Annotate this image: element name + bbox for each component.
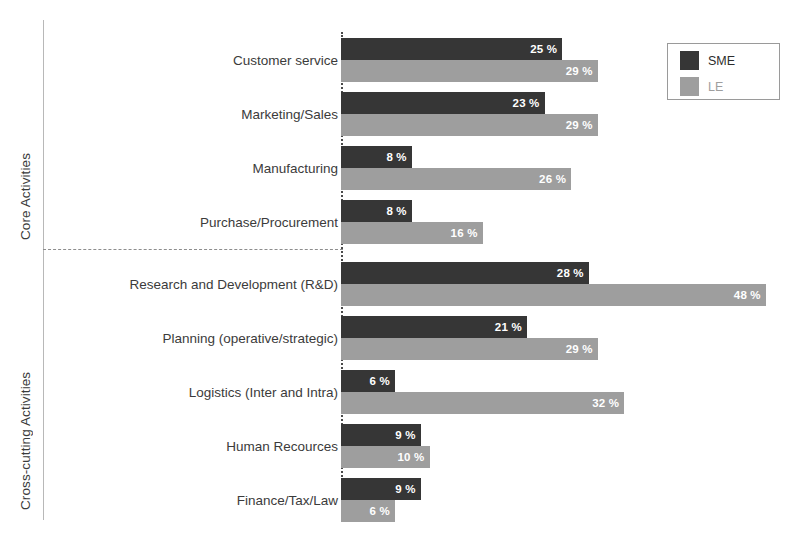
bar-le: 48 % [341,284,766,306]
bar-value-label: 32 % [592,397,619,409]
bar-le: 29 % [341,60,598,82]
category-label: Customer service [233,54,338,68]
bar-value-label: 9 % [395,483,415,495]
bar-pair: 21 %29 % [341,316,598,360]
bar-pair: 28 %48 % [341,262,766,306]
legend-item-le: LE [680,77,779,96]
bar-le: 26 % [341,168,571,190]
group-axis-line [43,20,44,520]
bar-value-label: 26 % [539,173,566,185]
bar-value-label: 48 % [734,289,761,301]
bar-le: 6 % [341,500,395,522]
bar-value-label: 29 % [566,65,593,77]
bar-sme: 6 % [341,370,395,392]
bar-sme: 8 % [341,200,412,222]
bar-pair: 23 %29 % [341,92,598,136]
legend-label-le: LE [708,80,723,94]
legend-swatch-sme-icon [680,51,699,70]
category-label: Research and Development (R&D) [129,278,338,292]
bar-sme: 9 % [341,478,421,500]
bar-le: 10 % [341,446,430,468]
bar-sme: 23 % [341,92,545,114]
legend-swatch-le-icon [680,77,699,96]
bar-value-label: 6 % [370,505,390,517]
chart-legend: SME LE [667,43,780,100]
category-label: Human Recources [226,440,338,454]
bar-value-label: 23 % [513,97,540,109]
bar-value-label: 29 % [566,119,593,131]
bar-pair: 9 %10 % [341,424,430,468]
group-label-core-activities: Core Activities [18,60,33,240]
group-label-cross-cutting-activities: Cross-cutting Activities [18,280,33,510]
category-label: Manufacturing [252,162,338,176]
category-label: Purchase/Procurement [200,216,338,230]
bar-le: 29 % [341,338,598,360]
bar-value-label: 8 % [386,151,406,163]
bar-value-label: 28 % [557,267,584,279]
category-label: Logistics (Inter and Intra) [189,386,338,400]
bar-sme: 8 % [341,146,412,168]
bar-sme: 25 % [341,38,562,60]
bar-value-label: 9 % [395,429,415,441]
bar-chart: Core Activities Cross-cutting Activities… [0,0,795,542]
bar-pair: 8 %16 % [341,200,483,244]
bar-sme: 9 % [341,424,421,446]
bar-pair: 6 %32 % [341,370,624,414]
bar-pair: 8 %26 % [341,146,571,190]
bar-pair: 9 %6 % [341,478,421,522]
bar-value-label: 21 % [495,321,522,333]
bar-value-label: 16 % [451,227,478,239]
bar-le: 29 % [341,114,598,136]
bar-value-label: 6 % [370,375,390,387]
bar-sme: 28 % [341,262,589,284]
bar-sme: 21 % [341,316,527,338]
legend-item-sme: SME [680,51,779,70]
category-label: Planning (operative/strategic) [162,332,338,346]
bar-pair: 25 %29 % [341,38,598,82]
bar-le: 16 % [341,222,483,244]
legend-label-sme: SME [708,54,735,68]
category-label: Finance/Tax/Law [237,494,338,508]
bar-value-label: 10 % [397,451,424,463]
bar-value-label: 25 % [530,43,557,55]
bar-value-label: 8 % [386,205,406,217]
bar-value-label: 29 % [566,343,593,355]
group-divider-line [43,249,343,250]
category-label: Marketing/Sales [241,108,338,122]
bar-le: 32 % [341,392,624,414]
